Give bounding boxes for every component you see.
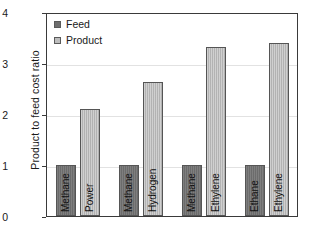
legend: Feed Product: [54, 18, 102, 50]
bar-label-wrapper: Hydrogen: [144, 211, 162, 212]
legend-swatch-feed-icon: [54, 21, 61, 28]
bar-label-wrapper: Methane: [57, 211, 75, 212]
bar-product-power: Power: [80, 109, 100, 216]
bar-label: Hydrogen: [148, 169, 158, 212]
bar-label: Methane: [124, 173, 134, 212]
bar-label: Methane: [187, 173, 197, 212]
bar-feed-methane: Methane: [182, 165, 202, 216]
bar-product-ethylene: Ethylene: [206, 47, 226, 216]
bar-label-wrapper: Methane: [120, 211, 138, 212]
bar-label: Methane: [61, 173, 71, 212]
y-tick-label-2: 2: [0, 109, 8, 121]
y-axis-title: Product to feed cost ratio: [29, 15, 41, 205]
legend-swatch-product-icon: [54, 37, 61, 44]
bar-product-ethylene: Ethylene: [269, 43, 289, 216]
y-tick-label-1: 1: [0, 160, 8, 172]
bar-label-wrapper: Methane: [183, 211, 201, 212]
y-tick-label-4: 4: [0, 7, 8, 19]
y-tick-label-3: 3: [0, 58, 8, 70]
legend-label-product: Product: [66, 34, 102, 47]
legend-item-feed: Feed: [54, 18, 102, 31]
legend-label-feed: Feed: [66, 18, 90, 31]
legend-item-product: Product: [54, 34, 102, 47]
y-tick-mark: [42, 217, 46, 218]
bar-label-wrapper: Ethylene: [207, 211, 225, 212]
bar-label: Ethylene: [274, 173, 284, 212]
bar-label-wrapper: Ethylene: [270, 211, 288, 212]
bar-product-hydrogen: Hydrogen: [143, 82, 163, 216]
bar-label-wrapper: Power: [81, 211, 99, 212]
bar-label-wrapper: Ethane: [246, 211, 264, 212]
bar-feed-methane: Methane: [119, 165, 139, 216]
bar-label: Power: [85, 184, 95, 212]
bar-label: Ethane: [250, 180, 260, 212]
bar-feed-ethane: Ethane: [245, 165, 265, 216]
bar-chart: Product to feed cost ratio 4 3 2 1 0 Met…: [0, 0, 310, 233]
bar-feed-methane: Methane: [56, 165, 76, 216]
y-tick-label-0: 0: [0, 211, 8, 223]
bar-label: Ethylene: [211, 173, 221, 212]
